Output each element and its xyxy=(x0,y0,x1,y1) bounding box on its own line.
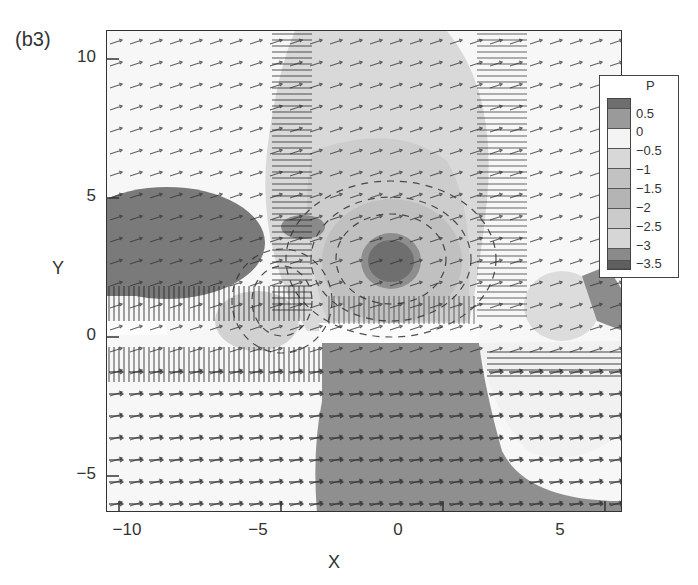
legend-label: −2 xyxy=(636,200,651,215)
legend-colorbar xyxy=(607,98,631,270)
legend-swatch xyxy=(608,261,630,269)
ytick-label-5: 5 xyxy=(56,186,96,206)
xtick-label-neg5: −5 xyxy=(233,520,283,540)
legend-swatch xyxy=(608,169,630,189)
legend-label: −3.5 xyxy=(636,256,662,271)
plot-area xyxy=(106,30,622,512)
legend-swatch xyxy=(608,109,630,129)
legend-swatch xyxy=(608,129,630,149)
panel-label: (b3) xyxy=(15,28,51,51)
ytick-label-10: 10 xyxy=(56,47,96,67)
xtick-label-5: 5 xyxy=(535,520,585,540)
legend-label: −1.5 xyxy=(636,181,662,196)
legend-swatch xyxy=(608,99,630,109)
legend-swatch xyxy=(608,229,630,249)
legend-swatch xyxy=(608,249,630,261)
legend-label: −1 xyxy=(636,162,651,177)
legend-label: −2.5 xyxy=(636,219,662,234)
legend-label: 0.5 xyxy=(636,106,654,121)
legend-label: −0.5 xyxy=(636,143,662,158)
legend: P 0.5 0 −0.5 −1 −1.5 −2 −2.5 −3 −3.5 xyxy=(599,75,679,278)
legend-swatch xyxy=(608,149,630,169)
y-axis-title: Y xyxy=(52,258,64,279)
legend-swatch xyxy=(608,189,630,209)
xtick-label-neg10: −10 xyxy=(102,520,152,540)
legend-label: 0 xyxy=(636,124,643,139)
x-axis-title: X xyxy=(328,552,340,573)
legend-title: P xyxy=(646,78,655,93)
legend-swatch xyxy=(608,209,630,229)
ytick-label-neg5: −5 xyxy=(56,464,96,484)
ytick-label-0: 0 xyxy=(56,325,96,345)
legend-label: −3 xyxy=(636,238,651,253)
contour-field xyxy=(107,31,622,512)
xtick-label-0: 0 xyxy=(373,520,423,540)
